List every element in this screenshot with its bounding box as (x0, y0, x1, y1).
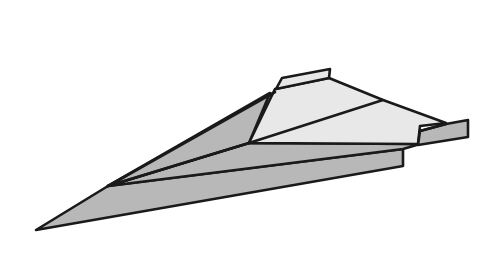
paper-airplane-illustration (0, 0, 487, 280)
